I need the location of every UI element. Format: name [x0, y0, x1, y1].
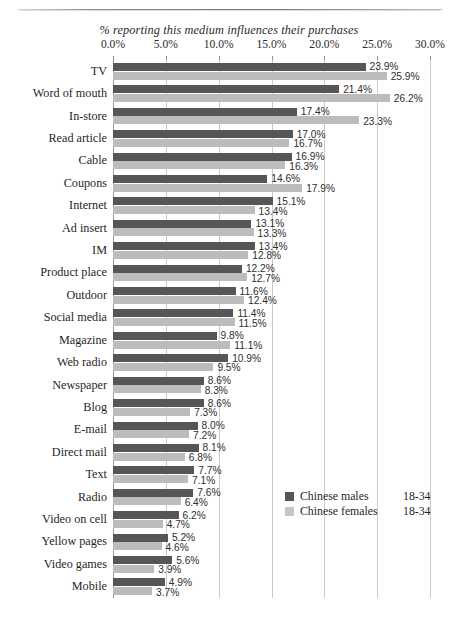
value-label-males: 8.0% — [202, 422, 225, 430]
legend-label-females: Chinese females — [300, 504, 403, 519]
value-label-females: 4.6% — [166, 544, 189, 552]
value-label-females: 6.8% — [189, 454, 212, 462]
value-label-males: 21.4% — [343, 86, 372, 94]
category-label: Coupons — [64, 177, 107, 190]
value-label-males: 15.1% — [277, 198, 306, 206]
category-label: Outdoor — [66, 289, 107, 302]
value-label-females: 16.7% — [293, 140, 322, 148]
bar-males — [113, 108, 297, 116]
legend-label-males: Chinese males — [300, 489, 403, 504]
value-label-females: 7.3% — [194, 409, 217, 417]
tick-mark — [113, 56, 114, 60]
bar-males — [113, 534, 168, 542]
bar-females — [113, 116, 359, 124]
bar-males — [113, 511, 179, 519]
bar-males — [113, 466, 194, 474]
x-tick-label: 20.0% — [309, 38, 339, 51]
category-label: Magazine — [59, 334, 107, 347]
bar-males — [113, 242, 255, 250]
bar-females — [113, 72, 387, 80]
bar-males — [113, 444, 199, 452]
legend-swatch-males — [285, 492, 294, 501]
tick-mark — [166, 56, 167, 60]
bar-females — [113, 228, 254, 236]
value-label-females: 12.4% — [248, 297, 277, 305]
bar-males — [113, 63, 366, 71]
value-label-females: 6.4% — [185, 499, 208, 507]
bar-females — [113, 453, 185, 461]
bar-males — [113, 265, 242, 273]
bar-females — [113, 587, 152, 595]
x-tick-label: 0.0% — [101, 38, 125, 51]
value-label-females: 13.4% — [259, 208, 288, 216]
tick-mark — [219, 56, 220, 60]
bar-females — [113, 273, 247, 281]
value-label-males: 7.7% — [198, 467, 221, 475]
legend-item-females: Chinese females 18-34 — [285, 504, 431, 519]
bar-females — [113, 565, 154, 573]
category-label: E-mail — [74, 423, 107, 436]
x-tick-label: 15.0% — [257, 38, 287, 51]
bar-females — [113, 408, 190, 416]
category-label: Newspaper — [52, 379, 107, 392]
value-label-males: 14.6% — [271, 175, 300, 183]
category-label: Video games — [44, 558, 107, 571]
bar-females — [113, 206, 255, 214]
tick-mark — [324, 56, 325, 60]
value-label-females: 12.7% — [251, 275, 280, 283]
category-axis-labels: TVWord of mouthIn-storeRead articleCable… — [0, 60, 107, 598]
category-label: Web radio — [57, 356, 107, 369]
bar-females — [113, 385, 201, 393]
bar-males — [113, 489, 193, 497]
category-label: Read article — [48, 132, 107, 145]
category-label: Product place — [40, 266, 107, 279]
bar-males — [113, 354, 228, 362]
bar-females — [113, 94, 390, 102]
category-label: Word of mouth — [33, 87, 107, 100]
category-label: TV — [91, 65, 107, 78]
bar-males — [113, 377, 204, 385]
category-label: Mobile — [72, 580, 107, 593]
value-label-females: 17.9% — [306, 185, 335, 193]
bar-males — [113, 85, 339, 93]
bar-males — [113, 220, 251, 228]
bar-males — [113, 578, 165, 586]
x-tick-label: 10.0% — [204, 38, 234, 51]
legend-swatch-females — [285, 507, 294, 516]
bar-males — [113, 197, 273, 205]
category-label: Text — [86, 468, 107, 481]
bar-females — [113, 296, 244, 304]
value-label-females: 3.7% — [156, 589, 179, 597]
value-label-females: 11.1% — [234, 342, 262, 350]
category-label: In-store — [69, 110, 107, 123]
bar-females — [113, 184, 302, 192]
value-label-females: 13.3% — [258, 230, 287, 238]
bar-females — [113, 430, 189, 438]
category-label: Video on cell — [42, 513, 107, 526]
value-label-females: 25.9% — [391, 73, 420, 81]
bar-males — [113, 175, 267, 183]
category-label: Cable — [79, 154, 107, 167]
value-label-females: 16.3% — [289, 163, 318, 171]
bar-females — [113, 161, 285, 169]
x-tick-label: 5.0% — [154, 38, 178, 51]
bar-females — [113, 341, 230, 349]
bar-males — [113, 287, 236, 295]
category-label: Internet — [69, 199, 107, 212]
value-label-females: 8.3% — [205, 387, 228, 395]
legend-range-males: 18-34 — [403, 489, 431, 504]
legend-item-males: Chinese males 18-34 — [285, 489, 431, 504]
value-label-males: 5.2% — [172, 534, 195, 542]
bar-females — [113, 139, 289, 147]
bar-females — [113, 318, 235, 326]
value-label-females: 12.8% — [252, 252, 281, 260]
category-label: Social media — [44, 311, 107, 324]
value-label-females: 7.1% — [192, 477, 215, 485]
chart-title: % reporting this medium influences their… — [0, 23, 458, 38]
bar-females — [113, 475, 188, 483]
bar-females — [113, 542, 162, 550]
value-label-males: 12.2% — [246, 265, 275, 273]
bar-males — [113, 399, 204, 407]
chart-legend: Chinese males 18-34 Chinese females 18-3… — [285, 489, 431, 519]
value-label-males: 11.4% — [237, 310, 265, 318]
